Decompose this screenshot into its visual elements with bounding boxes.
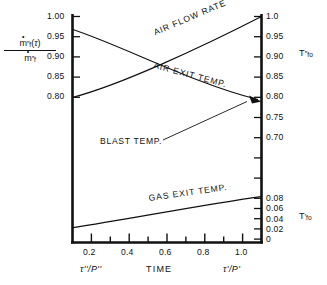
- right-upper-tick-label-0-90: 0.90: [266, 51, 284, 61]
- right-upper-tick-label-0-95: 0.95: [266, 31, 284, 41]
- x-tick-label-0-8: 0.8: [197, 247, 210, 257]
- x-tick-label-0-6: 0.6: [159, 247, 172, 257]
- right-lower-tick-label-0-08: 0.08: [266, 193, 284, 203]
- right-lower-tick-label-0-04: 0.04: [266, 214, 284, 224]
- right-upper-tick-label-1-0: 1.0: [266, 11, 279, 21]
- left-tick-label-0-95: 0.95: [47, 31, 65, 41]
- x-axis-label-time: TIME: [146, 264, 172, 274]
- x-axis-label-right: τ'/P': [223, 264, 240, 274]
- curve-gas-exit-temp: [73, 197, 261, 228]
- left-tick-label-1-00: 1.00: [47, 11, 65, 21]
- x-axis-label-left: τ''/P'': [80, 264, 102, 274]
- x-axis-ticks: [91, 234, 242, 243]
- right-upper-axis-name: T″fo: [299, 48, 313, 58]
- right-upper-tick-label-0-85: 0.85: [266, 71, 284, 81]
- x-tick-label-0-2: 0.2: [83, 247, 96, 257]
- right-lower-tick-label-0: 0: [266, 234, 271, 244]
- right-lower-axis-name: T′fo: [299, 211, 312, 221]
- x-tick-label-1-0: 1.0: [235, 247, 248, 257]
- right-upper-tick-label-0-75: 0.75: [266, 112, 284, 122]
- left-tick-label-0-85: 0.85: [47, 71, 65, 81]
- left-tick-label-0-80: 0.80: [47, 91, 65, 101]
- right-upper-tick-label-0-80: 0.80: [266, 91, 284, 101]
- axis-lines: [71, 14, 263, 244]
- right-lower-tick-label-0-06: 0.06: [266, 203, 284, 213]
- blast-temp-leader-line: [163, 102, 247, 141]
- left-tick-label-0-90: 0.90: [47, 51, 65, 61]
- right-upper-tick-label-0-70: 0.70: [266, 132, 284, 142]
- x-tick-label-0-4: 0.4: [121, 247, 134, 257]
- right-lower-tick-label-0-02: 0.02: [266, 224, 284, 234]
- annotation-blast-temp: BLAST TEMP.: [100, 136, 162, 146]
- figure-container: m″f(τ) m″f 1.00 0.95 0.90 0.85 0.80 1.0 …: [0, 0, 327, 285]
